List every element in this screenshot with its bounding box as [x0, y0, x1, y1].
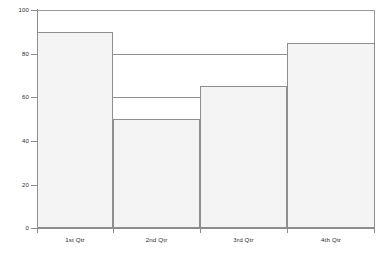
plot-area	[37, 10, 375, 228]
y-axis-label-20: 20	[3, 182, 29, 188]
bar-4th-qtr[interactable]	[287, 43, 375, 228]
x-axis-label-3rd-qtr: 3rd Qtr	[200, 236, 287, 243]
x-axis-label-2nd-qtr: 2nd Qtr	[113, 236, 200, 243]
x-axis-tick-0	[37, 228, 38, 233]
bar-3rd-qtr[interactable]	[200, 86, 287, 228]
y-axis-label-40: 40	[3, 138, 29, 144]
x-axis-tick-2	[200, 228, 201, 233]
reference-line-80	[113, 54, 287, 55]
x-axis-label-1st-qtr: 1st Qtr	[37, 236, 113, 243]
x-axis-label-4th-qtr: 4th Qtr	[287, 236, 375, 243]
x-axis-line	[36, 228, 375, 229]
bar-1st-qtr[interactable]	[37, 32, 113, 228]
y-axis-label-80: 80	[3, 51, 29, 57]
y-axis-label-0: 0	[3, 225, 29, 231]
reference-line-60	[113, 97, 200, 98]
x-axis-tick-4	[374, 228, 375, 233]
bar-chart: 100 80 60 40 20 0 1st Qtr 2nd Qtr 3rd Qt…	[0, 0, 385, 256]
x-axis-tick-1	[113, 228, 114, 233]
bar-2nd-qtr[interactable]	[113, 119, 200, 228]
y-axis-label-60: 60	[3, 94, 29, 100]
x-axis-tick-3	[287, 228, 288, 233]
y-axis-label-100: 100	[3, 7, 29, 13]
